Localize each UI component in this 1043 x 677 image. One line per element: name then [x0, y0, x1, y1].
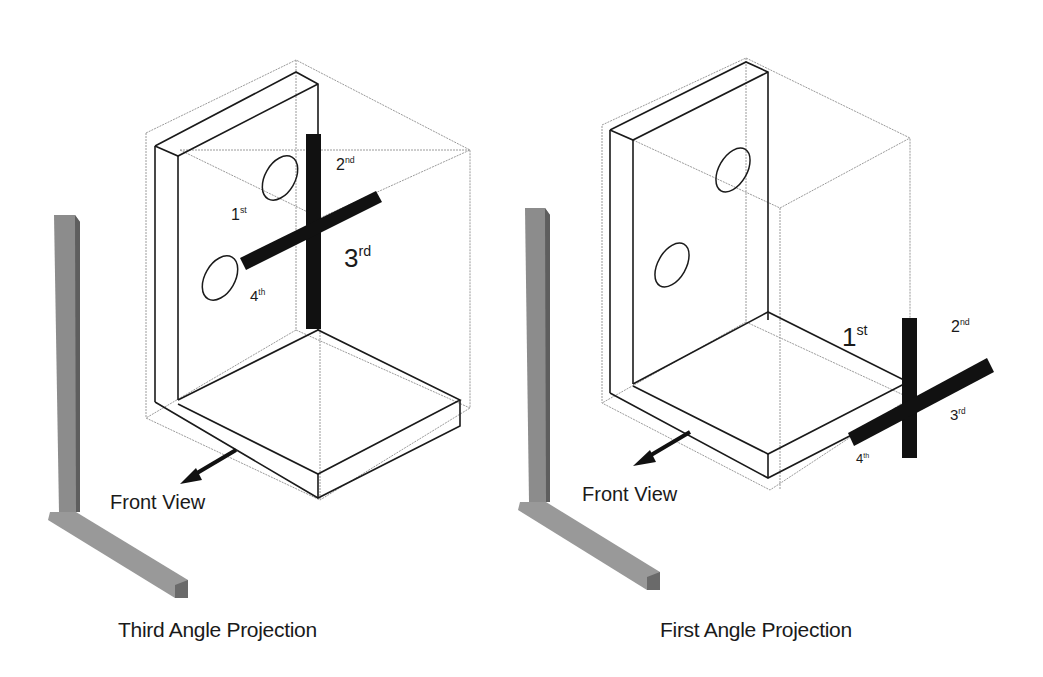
hole-lower-icon — [648, 237, 696, 293]
quadrant-label-1st: 1st — [842, 323, 868, 350]
front-view-label: Front View — [582, 483, 677, 506]
front-view-arrow-icon — [633, 432, 690, 466]
hole-upper-icon — [255, 150, 305, 207]
quadrant-label-1st: 1st — [231, 206, 247, 223]
third-angle-figure: 1st 2nd 3rd 4th Front View Third Angle P… — [0, 0, 521, 677]
front-view-arrow-icon — [180, 450, 236, 484]
quadrant-label-4th: 4th — [250, 288, 265, 303]
quadrant-label-4th: 4th — [856, 452, 869, 465]
reference-l-bar-icon — [48, 215, 188, 598]
quadrant-label-3rd: 3rd — [950, 407, 966, 422]
quadrant-label-2nd: 2nd — [951, 318, 970, 335]
figure-caption: First Angle Projection — [660, 618, 852, 642]
reference-l-bar-icon — [518, 208, 660, 590]
first-angle-figure: 1st 2nd 3rd 4th Front View First Angle P… — [450, 0, 971, 677]
third-angle-drawing — [0, 0, 521, 677]
vertical-plane-bar-icon — [902, 318, 917, 458]
front-view-label: Front View — [110, 491, 205, 514]
hole-upper-icon — [709, 142, 757, 198]
first-angle-drawing — [450, 0, 1043, 677]
quadrant-label-2nd: 2nd — [336, 156, 355, 173]
hole-lower-icon — [195, 250, 245, 307]
quadrant-label-3rd: 3rd — [344, 244, 371, 271]
figure-caption: Third Angle Projection — [118, 618, 317, 642]
